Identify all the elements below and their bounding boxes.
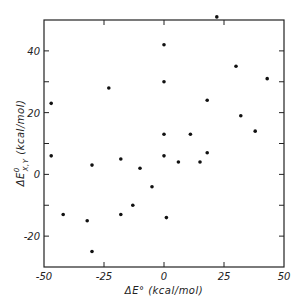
y-tick-label: 40 — [27, 46, 40, 57]
y-label-suffix: (kcal/mol) — [15, 100, 26, 159]
y-tick-label: 20 — [27, 108, 40, 119]
x-axis-ticks: -50-2502550 — [36, 20, 291, 282]
data-point — [119, 157, 123, 161]
data-point — [138, 166, 142, 170]
data-point — [177, 160, 181, 164]
data-point — [162, 80, 166, 84]
data-point — [150, 185, 154, 189]
data-point — [162, 154, 166, 158]
scatter-chart: -50-2502550 -2002040 ΔE° (kcal/mol) ΔE0X… — [0, 0, 306, 299]
data-point — [49, 102, 53, 106]
data-point — [239, 114, 243, 118]
data-point — [198, 160, 202, 164]
data-point — [85, 219, 89, 223]
data-point — [205, 98, 209, 102]
data-point — [131, 203, 135, 207]
data-point — [205, 151, 209, 155]
data-points — [49, 15, 269, 253]
y-tick-label: -20 — [24, 231, 40, 242]
data-point — [107, 86, 111, 90]
x-tick-label: -50 — [36, 271, 52, 282]
data-point — [90, 250, 94, 254]
data-point — [162, 43, 166, 47]
x-tick-label: 50 — [278, 271, 291, 282]
y-axis-ticks: -2002040 — [24, 46, 284, 242]
y-label-prefix: ΔE — [15, 172, 26, 187]
y-label-superscript: 0 — [13, 167, 21, 172]
data-point — [189, 132, 193, 136]
data-point — [165, 216, 169, 220]
data-point — [253, 129, 257, 133]
x-tick-label: -25 — [96, 271, 112, 282]
data-point — [265, 77, 269, 81]
data-point — [90, 163, 94, 167]
plot-frame — [44, 20, 284, 267]
y-label-subscript: X,Y — [22, 158, 30, 172]
data-point — [215, 15, 219, 19]
x-axis-label: ΔE° (kcal/mol) — [124, 285, 203, 296]
data-point — [119, 213, 123, 217]
x-tick-label: 0 — [161, 271, 167, 282]
data-point — [49, 154, 53, 158]
data-point — [234, 65, 238, 69]
data-point — [61, 213, 65, 217]
data-point — [162, 132, 166, 136]
y-tick-label: 0 — [34, 169, 40, 180]
x-tick-label: 25 — [218, 271, 231, 282]
